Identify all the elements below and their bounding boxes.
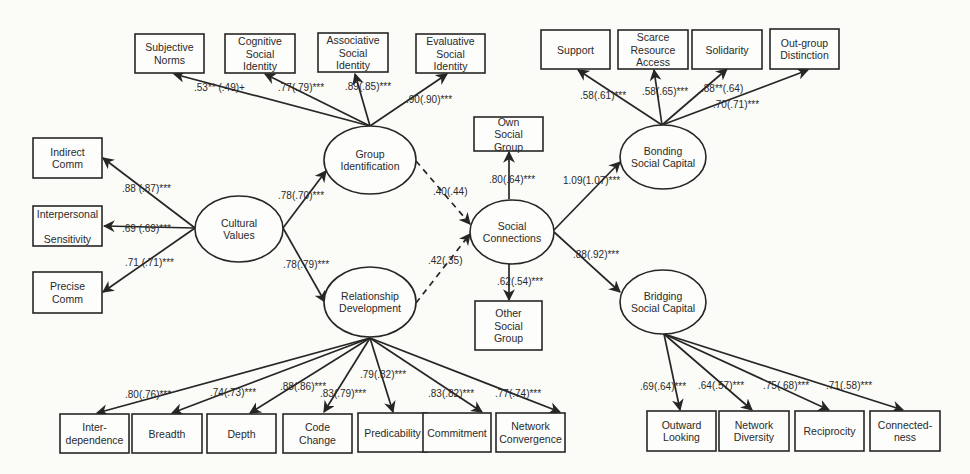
path-bo-to-sra — [654, 70, 662, 125]
indicator-label: Indirect — [50, 146, 85, 158]
latent-variable-label: Cultural — [221, 217, 257, 229]
indicator-pc: PreciseComm — [33, 272, 102, 313]
path-coefficient: 1.09(1.07)*** — [563, 175, 620, 186]
indicator-label: Group — [494, 332, 523, 344]
path-coefficient: .77(.79)*** — [278, 82, 324, 93]
indicator-cch: CodeChange — [283, 414, 352, 453]
indicator-nco: NetworkConvergence — [496, 413, 565, 452]
path-sc-to-br — [554, 232, 620, 292]
path-coefficient: .69(.64)*** — [640, 381, 686, 392]
indicator-sol: Solidarity — [692, 30, 762, 69]
indicator-esi: EvaluativeSocialIdentity — [416, 34, 485, 73]
latent-variable-sc: SocialConnections — [470, 200, 554, 264]
indicator-label: Cognitive — [238, 35, 282, 47]
indicator-label: Interpersonal — [37, 208, 98, 220]
path-coefficient: .74(.73)*** — [210, 387, 256, 398]
latent-variable-label: Relationship — [341, 290, 399, 302]
indicator-label: Identity — [434, 60, 469, 72]
path-coefficient: .89(.85)*** — [345, 81, 391, 92]
indicator-label: Own — [498, 116, 520, 128]
indicator-label: Out-group — [781, 37, 828, 49]
indicator-label: Other — [495, 307, 522, 319]
indicator-label: Inter- — [82, 421, 107, 433]
indicator-label: Associative — [326, 34, 379, 46]
indicator-label: dependence — [66, 434, 124, 446]
path-coefficient: .88(.92)*** — [573, 249, 619, 260]
latent-variable-label: Development — [339, 302, 401, 314]
indicator-ogd: Out-groupDistinction — [770, 29, 839, 69]
indicator-label: Looking — [663, 431, 700, 443]
path-coefficient: .75(.68)*** — [763, 380, 809, 391]
indicator-label: Identity — [336, 59, 371, 71]
indicator-label: Resource — [631, 44, 676, 56]
indicator-sra: ScarceResourceAccess — [618, 30, 688, 69]
path-coefficient: .64(.57)*** — [698, 380, 744, 391]
indicator-asi: AssociativeSocialIdentity — [318, 33, 388, 72]
indicator-label: Code — [305, 421, 330, 433]
indicator-sn: SubjectiveNorms — [135, 34, 204, 73]
path-coefficient: .71(.58)*** — [826, 380, 872, 391]
path-coefficient: .70(.71)*** — [713, 99, 759, 110]
indicator-label: Connected- — [878, 419, 933, 431]
path-coefficient: .78(.79)*** — [283, 259, 329, 270]
path-rd-to-bre — [172, 338, 370, 413]
latent-variable-label: Social Capital — [631, 302, 695, 314]
path-coefficient: .83(.82)*** — [428, 388, 474, 399]
path-br-to-con — [664, 334, 903, 410]
path-coefficient: .78(.70)*** — [278, 190, 324, 201]
path-rd-to-sc — [416, 234, 470, 303]
indicator-com: Commitment — [423, 413, 491, 452]
latent-variable-cv: CulturalValues — [195, 196, 283, 262]
indicator-label: Evaluative — [426, 35, 475, 47]
indicator-label: Predicability — [364, 427, 421, 439]
latent-variable-gi: GroupIdentification — [324, 126, 416, 194]
path-coefficient: .77(.74)*** — [495, 388, 541, 399]
indicator-label: Change — [299, 434, 336, 446]
indicator-label: Outward — [662, 419, 702, 431]
indicator-label: ness — [894, 431, 916, 443]
indicator-label: Social — [494, 128, 523, 140]
latent-variable-label: Group — [355, 148, 384, 160]
indicator-label: Distinction — [780, 49, 829, 61]
indicator-otsg: OtherSocialGroup — [475, 301, 542, 350]
path-coefficient: .80(.64)*** — [489, 174, 535, 185]
indicator-int: Inter-dependence — [60, 414, 129, 453]
path-coefficient: .80(.76)*** — [125, 389, 171, 400]
latent-variable-br: BridgingSocial Capital — [620, 270, 706, 334]
indicator-ips: InterpersonalSensitivity — [33, 206, 102, 246]
latent-variable-label: Connections — [483, 232, 541, 244]
path-coefficient: .71 (.71)*** — [125, 257, 174, 268]
path-bo-to-sol — [662, 69, 727, 125]
path-coefficient: .83(.79)*** — [320, 388, 366, 399]
indicator-label: Social — [339, 47, 368, 59]
indicator-label: Comm — [52, 158, 83, 170]
indicator-label: Diversity — [734, 431, 775, 443]
indicator-label: Comm — [52, 293, 83, 305]
indicator-label: Precise — [50, 280, 85, 292]
indicator-pre: Predicability — [358, 413, 427, 452]
indicator-label: Group — [494, 141, 523, 153]
indicator-label: Scarce — [637, 31, 670, 43]
indicator-label: Depth — [227, 428, 255, 440]
indicator-sup: Support — [541, 30, 610, 69]
latent-variable-bo: BondingSocial Capital — [620, 125, 706, 189]
indicator-con: Connected-ness — [870, 411, 940, 451]
path-coefficient: .69 (.69)*** — [122, 223, 171, 234]
indicator-ndi: NetworkDiversity — [719, 411, 789, 451]
latent-variable-label: Social — [498, 220, 527, 232]
indicator-label: Convergence — [499, 433, 562, 445]
latent-variable-label: Bonding — [644, 145, 683, 157]
path-rd-to-int — [97, 338, 370, 413]
path-coefficient: .62(.54)*** — [497, 276, 543, 287]
indicator-label: Sensitivity — [44, 233, 92, 245]
path-coefficient: .58(.65)*** — [642, 86, 688, 97]
path-coefficient: .90(.90)*** — [406, 94, 452, 105]
indicator-owl: OutwardLooking — [647, 411, 716, 451]
indicator-label: Identity — [243, 60, 278, 72]
indicator-label: Commitment — [427, 427, 487, 439]
indicator-label: Network — [735, 419, 774, 431]
path-sc-to-bo — [554, 162, 620, 230]
indicator-label: Social — [494, 320, 523, 332]
path-coefficient: .42(.35) — [428, 255, 462, 266]
latent-variable-label: Values — [223, 229, 254, 241]
